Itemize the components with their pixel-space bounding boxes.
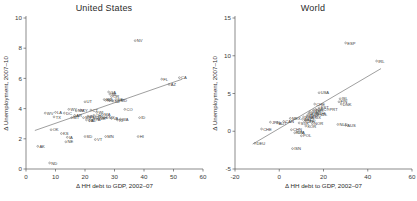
fitted-regression-line: [35, 79, 183, 130]
panel-united-states: United States 02468100102030405060Δ HH d…: [0, 0, 208, 201]
scatter-svg-united-states: 02468100102030405060Δ HH debt to GDP, 20…: [0, 0, 208, 201]
data-point-label: AUS: [347, 123, 356, 128]
x-tick-label: 30: [111, 173, 118, 180]
y-tick-label: 0: [228, 127, 232, 134]
data-point-label: VT: [97, 137, 103, 142]
data-point-label: ND: [51, 161, 57, 166]
y-tick-label: 0: [19, 165, 23, 172]
data-point-label: NE: [67, 139, 73, 144]
x-tick-label: 40: [364, 173, 371, 180]
data-point-label: NOR: [314, 121, 323, 126]
data-point-label: WY: [70, 107, 77, 112]
data-point-label: CHE: [263, 127, 272, 132]
figure-two-panel-scatter: United States 02468100102030405060Δ HH d…: [0, 0, 417, 201]
data-point-label: TX: [56, 115, 62, 120]
data-point-label: FL: [163, 77, 169, 82]
data-point-label: SD: [87, 134, 93, 139]
y-tick-label: 4: [19, 105, 23, 112]
data-point-label: VA: [113, 116, 118, 121]
data-point-label: CO: [126, 107, 132, 112]
plot-area-world: -5051015-200204060Δ HH debt to GDP, 2002…: [209, 0, 417, 201]
plot-area-united-states: 02468100102030405060Δ HH debt to GDP, 20…: [0, 0, 208, 201]
x-tick-label: 50: [170, 173, 177, 180]
data-point-label: USA: [321, 90, 330, 95]
x-tick-label: 0: [278, 173, 282, 180]
x-axis-title: Δ HH debt to GDP, 2002–07: [285, 182, 363, 189]
y-tick-label: 5: [228, 90, 232, 97]
data-point-label: UT: [87, 99, 93, 104]
y-axis-title: Δ Unemployment, 2007–10: [2, 56, 9, 131]
y-tick-label: 15: [224, 14, 231, 21]
data-point-label: RI: [119, 118, 123, 123]
data-point-label: MD: [121, 98, 127, 103]
data-point-label: PRT: [330, 107, 339, 112]
data-point-label: CHE: [316, 102, 325, 107]
y-tick-label: 2: [19, 135, 23, 142]
data-point-label: WV: [47, 111, 54, 116]
data-point-label: KY: [82, 108, 88, 113]
data-point-label: ESP: [347, 41, 355, 46]
x-tick-label: 60: [409, 173, 416, 180]
y-tick-label: 8: [19, 44, 23, 51]
data-point-label: ISL: [342, 96, 349, 101]
x-tick-label: 40: [141, 173, 148, 180]
y-tick-label: -5: [225, 165, 231, 172]
data-point-label: MT: [73, 115, 79, 120]
x-tick-label: 0: [24, 173, 28, 180]
y-tick-label: 10: [224, 52, 231, 59]
data-point-label: MN: [107, 134, 113, 139]
x-tick-label: 60: [200, 173, 207, 180]
data-point-label: AZ: [171, 82, 177, 87]
data-point-label: IRL: [378, 59, 385, 64]
x-tick-label: 20: [320, 173, 327, 180]
data-point-label: DEU: [257, 141, 266, 146]
x-tick-label: 20: [82, 173, 89, 180]
data-point-label: POL: [303, 133, 312, 138]
y-axis-title: Δ Unemployment, 2007–10: [211, 56, 218, 131]
y-tick-label: 6: [19, 75, 23, 82]
data-point-label: HI: [140, 134, 144, 139]
data-point-label: ISN: [294, 146, 301, 151]
data-point-label: KS: [63, 131, 69, 136]
data-point-label: MEX: [292, 116, 301, 121]
x-tick-label: 10: [52, 173, 59, 180]
scatter-svg-world: -5051015-200204060Δ HH debt to GDP, 2002…: [209, 0, 417, 201]
x-axis-title: Δ HH debt to GDP, 2002–07: [76, 182, 154, 189]
data-point-label: OK: [53, 127, 59, 132]
y-tick-label: 10: [15, 14, 22, 21]
data-point-label: CA: [181, 75, 187, 80]
data-point-label: NZL: [320, 112, 328, 117]
data-point-label: ID: [141, 115, 145, 120]
data-point-label: AK: [39, 144, 45, 149]
data-point-label: NLD: [339, 122, 347, 127]
data-point-label: TN: [88, 118, 94, 123]
data-point-label: NV: [137, 38, 143, 43]
panel-world: World -5051015-200204060Δ HH debt to GDP…: [209, 0, 417, 201]
x-tick-label: -20: [231, 173, 241, 180]
data-point-label: DNK: [343, 102, 352, 107]
